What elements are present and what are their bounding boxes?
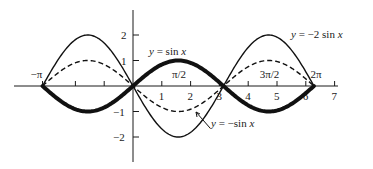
label-neg-2-sin-x: y = −2 sin x (290, 28, 343, 40)
y-tick-label: −1 (113, 106, 125, 118)
x-tick-label: 4 (245, 90, 251, 102)
x-tick-label: −π (31, 68, 43, 80)
y-tick-label: 2 (121, 29, 127, 41)
x-tick-label: 1 (159, 90, 165, 102)
sine-graph: −π1234567 21−1−2 π/23π/22π y = sin x y =… (0, 0, 373, 169)
x-tick-label: 2 (188, 90, 194, 102)
x-tick-label: 7 (332, 90, 338, 102)
y-tick-label: −2 (113, 131, 125, 143)
x-special-label: 3π/2 (260, 68, 280, 80)
label-sin-x: y = sin x (148, 45, 186, 57)
x-special-label: 2π (310, 68, 322, 80)
label-neg-sin-x: y = −sin x (210, 117, 254, 129)
y-tick-label: 1 (121, 55, 127, 67)
x-tick-label: 5 (274, 90, 280, 102)
x-special-label: π/2 (172, 68, 186, 80)
